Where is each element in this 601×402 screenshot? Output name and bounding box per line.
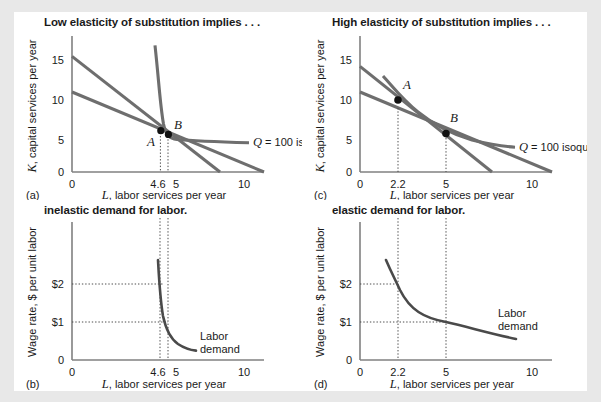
x-tick-0: 0 — [69, 366, 75, 378]
y-tick-0: 0 — [346, 166, 352, 178]
isocost-low-wage — [360, 92, 552, 172]
x-axis-title: L, labor services per year — [101, 188, 227, 200]
x-axis-title: L, labor services per year — [389, 377, 515, 391]
panel-b-letter: (b) — [26, 378, 39, 390]
point-b-marker — [442, 130, 450, 138]
y-tick-0: 0 — [346, 354, 352, 366]
panel-a-chart: A B Q = 100 isoquant 0 5 10 15 0 4.6 5 1… — [14, 12, 302, 200]
y-tick-0: 0 — [58, 166, 64, 178]
panel-c-chart: A B Q = 100 isoquant 0 5 10 15 0 2.2 5 1… — [302, 12, 587, 200]
point-a-label: A — [146, 134, 155, 149]
demand-label-line2: demand — [200, 343, 240, 355]
point-a-label: A — [402, 77, 411, 92]
panel-a-letter: (a) — [26, 189, 39, 200]
y-tick-2: $2 — [52, 278, 64, 290]
figure-frame: Low elasticity of substitution implies .… — [14, 12, 587, 391]
isoquant-label: Q = 100 isoquant — [519, 140, 587, 154]
demand-label-line1: Labor — [200, 330, 228, 342]
y-tick-1: $1 — [340, 316, 352, 328]
x-tick-10: 10 — [526, 178, 538, 190]
labor-demand-curve — [158, 260, 196, 351]
x-tick-5: 5 — [443, 366, 449, 378]
x-tick-0: 0 — [357, 366, 363, 378]
y-tick-2: $2 — [340, 278, 352, 290]
labor-demand-curve — [386, 260, 516, 339]
point-b-label: B — [450, 110, 458, 125]
x-tick-10: 10 — [238, 178, 250, 190]
isoquant-curve — [155, 45, 249, 143]
x-tick-10: 10 — [238, 366, 250, 378]
y-axis-title: Wage rate, $ per unit labor — [26, 227, 38, 357]
point-b-marker — [165, 131, 172, 138]
x-axis-title: L, labor services per year — [389, 188, 515, 200]
y-tick-0: 0 — [58, 354, 64, 366]
y-axis-title: K, capital services per year — [313, 39, 327, 173]
x-axis-title: L, labor services per year — [101, 377, 227, 391]
y-tick-15: 15 — [52, 54, 64, 66]
y-tick-5: 5 — [58, 134, 64, 146]
panel-d-chart: Labor demand 0 $1 $2 0 2.2 5 10 L, labor… — [302, 200, 587, 391]
panel-c-letter: (c) — [314, 189, 327, 200]
x-tick-10: 10 — [526, 366, 538, 378]
demand-label-line2: demand — [498, 320, 538, 332]
point-b-label: B — [174, 117, 182, 132]
y-tick-10: 10 — [340, 94, 352, 106]
y-axis-title: Wage rate, $ per unit labor — [314, 227, 326, 357]
isocost-high-wage — [72, 56, 220, 172]
x-tick-5: 5 — [173, 366, 179, 378]
x-tick-0: 0 — [69, 178, 75, 190]
isoquant-label: Q = 100 isoquant — [253, 135, 302, 149]
panel-b-chart: Labor demand 0 $1 $2 0 4.6 5 10 L, labor… — [14, 200, 302, 391]
y-tick-10: 10 — [52, 94, 64, 106]
y-axis-title: K, capital services per year — [25, 39, 39, 173]
y-tick-1: $1 — [52, 316, 64, 328]
point-a-marker — [157, 127, 164, 134]
x-tick-4-6: 4.6 — [150, 366, 165, 378]
demand-label-line1: Labor — [498, 307, 526, 319]
y-tick-15: 15 — [340, 54, 352, 66]
panel-d-letter: (d) — [314, 378, 327, 390]
x-tick-0: 0 — [357, 178, 363, 190]
point-a-marker — [394, 96, 402, 104]
y-tick-5: 5 — [346, 134, 352, 146]
